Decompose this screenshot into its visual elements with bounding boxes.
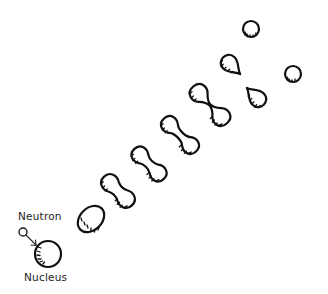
- stage-figure-eight: [186, 81, 234, 130]
- fission-diagram: Neutron Nucleus: [0, 0, 328, 294]
- stage-peanut-2: [127, 143, 170, 186]
- stage-elongated: [73, 201, 110, 238]
- stage-peanut-3: [157, 113, 202, 158]
- stage-fragment-a: [218, 52, 246, 80]
- arrow-icon: [26, 235, 36, 246]
- stage-fragment-b: [241, 82, 269, 110]
- stage-product-a: [243, 21, 259, 37]
- nucleus-label: Nucleus: [24, 271, 67, 283]
- diagram-svg: Neutron Nucleus: [0, 0, 328, 294]
- stage-peanut-1: [97, 171, 138, 212]
- stage-product-b: [285, 66, 301, 82]
- neutron-label: Neutron: [18, 210, 62, 222]
- stage-nucleus: [35, 241, 61, 267]
